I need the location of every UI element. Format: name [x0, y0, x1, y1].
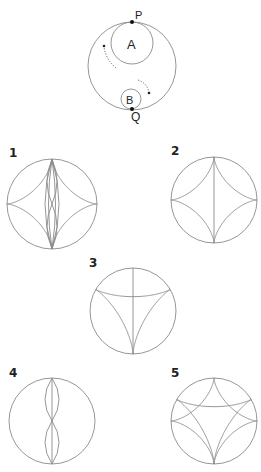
option-3: 3 — [89, 256, 176, 354]
option-4-label: 4 — [9, 366, 17, 380]
option-4: 4 — [9, 366, 95, 464]
setup-figure: A B P Q — [88, 9, 176, 124]
option-3-label: 3 — [89, 256, 97, 270]
rotation-arrow-right-icon — [138, 80, 149, 92]
option-5-deltoid — [177, 400, 251, 465]
option-5-circle — [171, 378, 257, 464]
option-2: 2 — [171, 144, 257, 243]
option-5: 5 — [171, 366, 257, 464]
rotation-arrow-left-head-icon — [103, 45, 106, 48]
rotation-arrow-right-head-icon — [148, 92, 151, 95]
diagram-canvas: A B P Q 1 2 3 4 5 — [0, 0, 261, 472]
option-1-label: 1 — [9, 146, 17, 160]
rotation-arrow-left-icon — [104, 47, 116, 68]
point-p-label: P — [135, 9, 142, 21]
option-1: 1 — [7, 146, 97, 249]
point-p-dot — [130, 20, 134, 24]
circle-a-label: A — [127, 37, 136, 52]
point-q-label: Q — [131, 110, 140, 124]
option-5-label: 5 — [171, 366, 179, 380]
circle-b-label: B — [126, 94, 133, 106]
option-2-label: 2 — [171, 144, 179, 158]
